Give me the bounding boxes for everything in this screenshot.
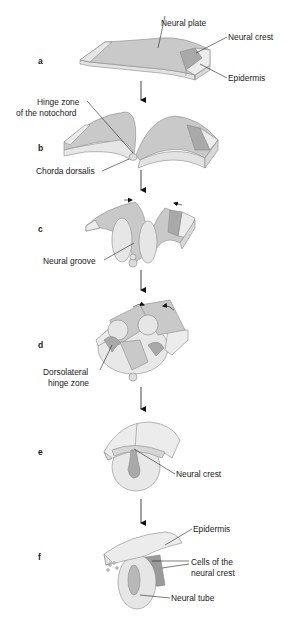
label-epidermis-f: Epidermis [193, 524, 230, 534]
label-epidermis-a: Epidermis [228, 73, 265, 83]
figure-caption-cropped [0, 612, 293, 622]
label-chorda-dorsalis: Chorda dorsalis [36, 166, 95, 176]
panel-letter-a: a [38, 56, 43, 66]
label-cells-of-the: Cells of the [191, 557, 233, 567]
panel-c-drawing [86, 202, 195, 267]
figure-drawing [0, 0, 293, 622]
label-neural-plate: Neural plate [161, 18, 206, 28]
panel-letter-f: f [38, 552, 41, 562]
label-neural-groove: Neural groove [43, 256, 96, 266]
label-hinge-zone-d: hinge zone [48, 378, 89, 388]
label-neural-crest-a: Neural crest [228, 32, 273, 42]
panel-d-drawing [96, 300, 188, 381]
panel-e-drawing [104, 422, 180, 491]
label-neural-crest-f: neural crest [191, 568, 235, 578]
label-neural-crest-e: Neural crest [176, 469, 221, 479]
label-dorsolateral: Dorsolateral [43, 367, 88, 377]
label-hinge-zone-line1: Hinge zone [37, 97, 79, 107]
panel-letter-b: b [38, 143, 43, 153]
neurulation-figure: a b c d e f Neural plate Neural crest Ep… [0, 0, 293, 622]
label-hinge-zone-line2: of the notochord [16, 108, 77, 118]
panel-b-drawing [64, 112, 218, 168]
panel-letter-d: d [38, 340, 43, 350]
panel-a-drawing [80, 38, 210, 80]
panel-letter-e: e [38, 447, 43, 457]
panel-letter-c: c [38, 224, 43, 234]
label-neural-tube: Neural tube [171, 593, 214, 603]
